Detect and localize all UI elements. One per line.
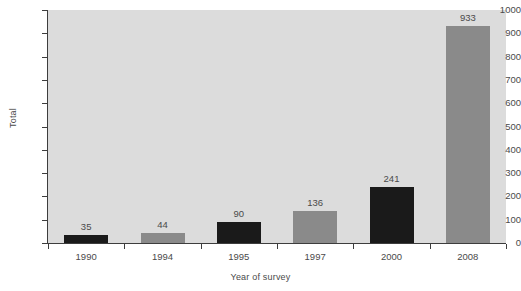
bar-value-label: 90 — [209, 209, 269, 219]
x-axis-tick — [506, 244, 507, 249]
x-axis-tick — [124, 244, 125, 249]
y-axis-tick-label: 300 — [483, 168, 521, 178]
y-axis-tick — [42, 10, 47, 11]
y-axis-tick — [42, 196, 47, 197]
bar-value-label: 35 — [56, 222, 116, 232]
y-axis-line — [47, 10, 48, 244]
y-axis-tick-label: 600 — [483, 98, 521, 108]
bar-chart: Total 354490136241933 010020030040050060… — [0, 0, 521, 291]
x-axis-tick — [353, 244, 354, 249]
y-axis-title: Total — [8, 88, 18, 148]
x-axis-tick-label: 2000 — [362, 252, 422, 262]
y-axis-tick-label: 700 — [483, 75, 521, 85]
x-axis-tick-label: 1997 — [285, 252, 345, 262]
y-axis-tick-label: 800 — [483, 52, 521, 62]
x-axis-title: Year of survey — [0, 272, 521, 282]
bar[interactable] — [141, 233, 185, 243]
bar[interactable] — [293, 211, 337, 243]
y-axis-tick — [42, 57, 47, 58]
bars-layer: 354490136241933 — [48, 10, 506, 243]
x-axis-tick — [201, 244, 202, 249]
bar[interactable] — [64, 235, 108, 243]
bar-value-label: 136 — [285, 198, 345, 208]
y-axis-tick — [42, 103, 47, 104]
bar[interactable] — [370, 187, 414, 243]
y-axis-tick-label: 200 — [483, 191, 521, 201]
x-axis-tick — [48, 244, 49, 249]
y-axis-tick-label: 1000 — [483, 5, 521, 15]
x-axis-tick-label: 1995 — [209, 252, 269, 262]
bar-value-label: 241 — [362, 174, 422, 184]
x-axis-tick-label: 1990 — [56, 252, 116, 262]
y-axis-tick — [42, 173, 47, 174]
y-axis-tick — [42, 127, 47, 128]
y-axis-tick-label: 100 — [483, 215, 521, 225]
y-axis-tick — [42, 150, 47, 151]
x-axis-tick — [430, 244, 431, 249]
y-axis-tick — [42, 80, 47, 81]
y-axis-tick-label: 900 — [483, 28, 521, 38]
x-axis-tick-label: 1994 — [133, 252, 193, 262]
bar-value-label: 44 — [133, 220, 193, 230]
y-axis-tick-label: 500 — [483, 122, 521, 132]
x-axis-tick-label: 2008 — [438, 252, 498, 262]
y-axis-tick-label: 400 — [483, 145, 521, 155]
y-axis-tick — [42, 33, 47, 34]
x-axis-tick — [277, 244, 278, 249]
bar[interactable] — [217, 222, 261, 243]
y-axis-tick — [42, 220, 47, 221]
